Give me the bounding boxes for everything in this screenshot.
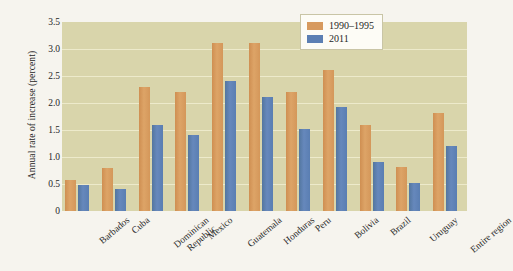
y-tick-label: 0	[34, 206, 60, 216]
y-tick-label: 0.5	[34, 179, 60, 189]
y-tick-label: 3.5	[34, 17, 60, 27]
bar-group	[320, 22, 357, 211]
x-tick-label: Mexico	[206, 215, 235, 242]
bar-group	[246, 22, 283, 211]
x-tick-label-line: Bolivia	[353, 215, 381, 241]
bar-group	[99, 22, 136, 211]
bar	[336, 107, 347, 211]
y-tick-label: 2.0	[34, 98, 60, 108]
chart-legend: 1990–1995 2011	[300, 14, 383, 50]
x-tick-label: Brazil	[388, 215, 413, 238]
bar-group	[357, 22, 394, 211]
x-tick-label: Bolivia	[353, 215, 381, 241]
bar-group	[62, 22, 99, 211]
bar	[225, 81, 236, 211]
bar	[78, 185, 89, 211]
y-tick-label: 2.5	[34, 71, 60, 81]
legend-entry-2011: 2011	[307, 32, 374, 45]
bar-group	[430, 22, 467, 211]
bar-group	[209, 22, 246, 211]
y-tick-label: 3.0	[34, 44, 60, 54]
bar-group	[172, 22, 209, 211]
legend-label-1990-1995: 1990–1995	[329, 20, 374, 31]
bar	[139, 87, 150, 211]
x-tick-label-line: Peru	[313, 215, 333, 234]
x-tick-label: Honduras	[281, 215, 316, 247]
bars-layer	[62, 22, 467, 211]
bar-group	[283, 22, 320, 211]
y-tick-label: 1.5	[34, 125, 60, 135]
bar	[433, 113, 444, 211]
x-tick-label: Barbados	[97, 215, 131, 246]
bar	[152, 125, 163, 211]
bar	[323, 70, 334, 211]
x-tick-label: Entire region	[468, 215, 513, 255]
x-tick-label: Peru	[313, 215, 333, 234]
x-tick-label-line: Guatemala	[245, 215, 283, 249]
legend-entry-1990-1995: 1990–1995	[307, 19, 374, 32]
legend-swatch-1990-1995	[307, 22, 323, 30]
x-tick-label: Uruguay	[428, 215, 460, 244]
y-axis-tick-labels: 3.53.02.52.01.51.00.50	[34, 22, 60, 211]
bar	[360, 125, 371, 211]
bar	[446, 146, 457, 211]
bar-group	[136, 22, 173, 211]
legend-swatch-2011	[307, 35, 323, 43]
bar	[65, 180, 76, 211]
bar	[262, 97, 273, 211]
legend-label-2011: 2011	[329, 33, 349, 44]
bar	[188, 135, 199, 211]
bar	[175, 92, 186, 211]
bar-group	[393, 22, 430, 211]
bar	[212, 43, 223, 211]
bar	[396, 167, 407, 211]
x-tick-label-line: Cuba	[130, 215, 152, 236]
bar	[249, 43, 260, 211]
bar	[102, 168, 113, 211]
x-tick-label: Guatemala	[245, 215, 283, 249]
bar	[286, 92, 297, 211]
x-tick-label-line: Brazil	[388, 215, 412, 238]
y-tick-label: 1.0	[34, 152, 60, 162]
x-axis-tick-labels: BarbadosCubaDominicanRepublicMexicoGuate…	[62, 211, 467, 271]
bar	[373, 162, 384, 211]
x-tick-label-line: Uruguay	[428, 215, 460, 244]
x-tick-label: Cuba	[130, 215, 152, 236]
plot-area	[62, 22, 467, 211]
bar	[409, 183, 420, 211]
x-tick-label-line: Barbados	[97, 215, 131, 246]
x-tick-label-line: Honduras	[281, 215, 316, 246]
x-tick-label-line: Entire region	[468, 215, 513, 255]
bar	[115, 189, 126, 211]
bar	[299, 129, 310, 211]
